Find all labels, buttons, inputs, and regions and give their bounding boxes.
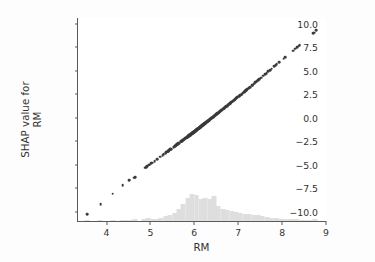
histogram-bar [133, 219, 138, 221]
y-tick-label: 7.5 [303, 42, 318, 53]
y-tick-mark [75, 211, 79, 212]
x-tick-mark [194, 221, 195, 225]
y-tick-mark [75, 164, 79, 165]
scatter-point [156, 158, 159, 161]
x-tick-mark [282, 221, 283, 225]
x-tick-label: 6 [191, 227, 197, 238]
y-axis-label: SHAP value for RM [19, 82, 42, 158]
x-axis-label: RM [77, 241, 326, 253]
y-tick-label: −7.5 [295, 183, 318, 194]
x-tick-mark [150, 221, 151, 225]
x-tick-label: 5 [147, 227, 153, 238]
y-tick-mark [75, 23, 79, 24]
scatter-point [315, 29, 318, 32]
x-tick-label: 7 [235, 227, 241, 238]
histogram-bar [313, 219, 318, 221]
x-tick-mark [326, 221, 327, 225]
scatter-point [111, 192, 114, 195]
scatter-point [86, 213, 89, 216]
scatter-point [134, 175, 137, 178]
y-tick-mark [75, 94, 79, 95]
y-tick-mark [75, 141, 79, 142]
x-tick-label: 9 [323, 227, 329, 238]
plot-area: 10.07.55.02.50.0−2.5−5.0−7.5−10.0456789 [77, 18, 326, 222]
scatter-point [284, 56, 287, 59]
scatter-point [121, 184, 124, 187]
y-tick-label: 10.0 [297, 18, 318, 29]
scatter-point [298, 44, 301, 47]
y-tick-label: 5.0 [303, 65, 318, 76]
y-tick-label: −5.0 [295, 159, 318, 170]
plot-inner [78, 18, 326, 221]
histogram-bar [84, 220, 89, 221]
y-tick-mark [75, 47, 79, 48]
x-tick-mark [106, 221, 107, 225]
y-tick-mark [75, 188, 79, 189]
scatter-point [99, 203, 102, 206]
scatter-point [128, 178, 131, 181]
shap-dependence-plot-figure: SHAP value for RM 10.07.55.02.50.0−2.5−5… [0, 0, 375, 262]
histogram-bar [111, 220, 116, 221]
y-tick-mark [75, 70, 79, 71]
y-tick-mark [75, 117, 79, 118]
scatter-point [278, 61, 281, 64]
x-tick-label: 4 [104, 227, 110, 238]
histogram-bar [97, 220, 102, 221]
y-tick-label: 2.5 [303, 89, 318, 100]
x-tick-mark [238, 221, 239, 225]
y-tick-label: 0.0 [303, 112, 318, 123]
x-tick-label: 8 [279, 227, 285, 238]
y-tick-label: −10.0 [290, 206, 319, 217]
y-axis-label-container: SHAP value for RM [14, 18, 48, 222]
y-tick-label: −2.5 [295, 136, 318, 147]
